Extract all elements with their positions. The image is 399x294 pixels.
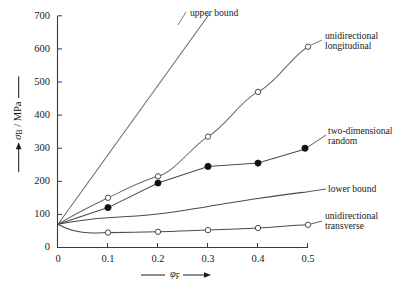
x-tick-label-0-5: 0.5 [294, 254, 322, 265]
series-label-unidirectional-transverse-line2: transverse [325, 221, 378, 231]
y-tick-label-200: 200 [24, 176, 50, 187]
series-label-unidirectional-transverse: unidirectional transverse [325, 211, 378, 232]
x-axis-leader-line [141, 271, 167, 279]
y-tick-label-400: 400 [24, 110, 50, 121]
x-tick-label-0-3: 0.3 [194, 254, 222, 265]
series-label-unidirectional-longitudinal-line2: longitudinal [325, 41, 378, 51]
chart-figure: 0 100 200 300 400 500 600 700 0 0.1 0.2 … [0, 0, 399, 294]
series-label-unidirectional-longitudinal: unidirectional longitudinal [325, 31, 378, 52]
y-axis-symbol: σ [12, 135, 23, 140]
x-tick-label-0-2: 0.2 [144, 254, 172, 265]
y-tick-label-600: 600 [24, 44, 50, 55]
series-label-two-dimensional-random-line2: random [328, 136, 392, 146]
y-axis-unit: / MPa [12, 101, 23, 129]
series-label-two-dimensional-random: two-dimensional random [328, 126, 392, 147]
y-tick-label-700: 700 [24, 11, 50, 22]
y-axis-title: σB / MPa [12, 76, 25, 172]
x-tick-label-0-1: 0.1 [94, 254, 122, 265]
series-label-lower-bound: lower bound [328, 184, 376, 194]
y-tick-label-0: 0 [24, 242, 50, 253]
y-tick-label-300: 300 [24, 143, 50, 154]
x-tick-label-0-4: 0.4 [244, 254, 272, 265]
x-axis-arrow-icon [183, 271, 211, 279]
y-axis-subscript: B [15, 129, 24, 134]
x-tick-label-0: 0 [44, 254, 72, 265]
y-tick-label-500: 500 [24, 77, 50, 88]
x-axis-title: φF [116, 268, 236, 281]
y-axis-arrow-icon [14, 142, 22, 172]
y-tick-label-100: 100 [24, 209, 50, 220]
y-axis-leader-line [14, 75, 22, 99]
series-label-upper-bound: upper bound [190, 8, 238, 18]
x-axis-subscript: F [176, 272, 180, 281]
